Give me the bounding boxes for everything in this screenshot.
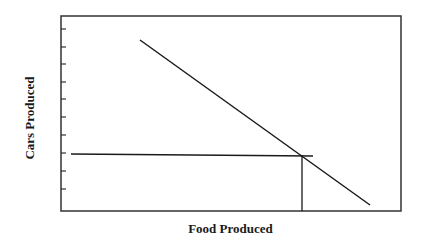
ppf-curve-line [140,40,370,205]
y-axis-label: Cars Produced [22,76,38,159]
plot-frame [61,16,401,211]
chart [0,0,421,238]
horizontal-reference-line [71,154,313,156]
x-axis-label: Food Produced [0,221,421,237]
